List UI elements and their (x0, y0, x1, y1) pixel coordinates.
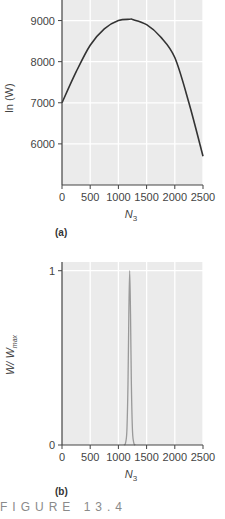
y-axis-label-main: W/ W (4, 347, 16, 375)
panel-label-b: (b) (55, 486, 68, 497)
y-tick-label: 1 (49, 265, 55, 277)
x-ticks: 05001000150020002500 (59, 445, 215, 463)
y-ticks: 01 (49, 265, 62, 451)
x-axis-label: N3 (125, 468, 138, 483)
x-tick-label: 2500 (191, 451, 215, 463)
chart-panel-b: 05001000150020002500 01 W/ Wmax N3 (b) (0, 0, 225, 500)
y-tick-label: 0 (49, 439, 55, 451)
y-axis-label-sub: max (11, 334, 18, 348)
x-tick-label: 1500 (134, 451, 158, 463)
x-tick-label: 500 (81, 451, 99, 463)
x-axis-label-main: N (125, 468, 133, 480)
y-axis-label: W/ Wmax (4, 334, 18, 375)
figure-caption: FIGURE 13.4 (0, 500, 127, 514)
x-tick-label: 2000 (163, 451, 187, 463)
x-tick-label: 1000 (106, 451, 130, 463)
x-axis-label-sub: 3 (133, 474, 138, 483)
x-tick-label: 0 (59, 451, 65, 463)
